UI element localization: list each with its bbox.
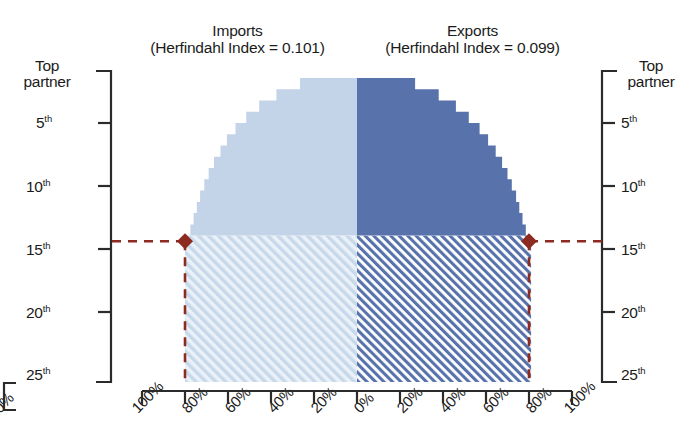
imports-solid-area bbox=[190, 78, 357, 236]
area-fills bbox=[185, 78, 531, 382]
x-axis bbox=[142, 391, 572, 405]
y-axis-right bbox=[602, 71, 617, 382]
y-axis-left bbox=[96, 71, 111, 382]
imports-hatched-area bbox=[185, 236, 357, 382]
exports-hatched-area bbox=[357, 236, 531, 382]
clipped-bracket bbox=[4, 383, 16, 410]
exports-solid-area bbox=[357, 78, 526, 236]
